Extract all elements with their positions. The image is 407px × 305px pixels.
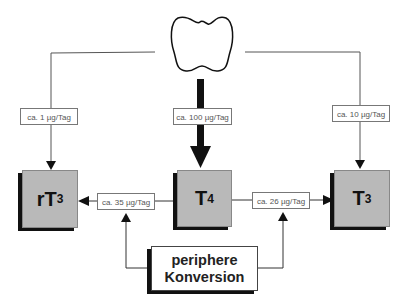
hormone-box-t4: T4	[177, 170, 232, 227]
hormone-sub-t3: 3	[365, 192, 372, 206]
thyroid-icon	[171, 17, 232, 71]
hormone-box-rt3: rT3	[22, 170, 78, 228]
hormone-sub-rt3: 3	[57, 192, 64, 206]
hormone-box-t3: T3	[334, 170, 390, 227]
rate-label-thyroid-rt3: ca. 1 µg/Tag	[20, 108, 78, 125]
rate-label-t4-rt3: ca. 35 µg/Tag	[97, 193, 155, 210]
rate-label-t4-t3: ca. 26 µg/Tag	[252, 192, 310, 209]
hormone-sub-t4: 4	[207, 192, 214, 206]
rate-label-thyroid-t3: ca. 10 µg/Tag	[332, 105, 390, 122]
rate-label-thyroid-t4: ca. 100 µg/Tag	[173, 108, 232, 125]
hormone-label-rt3: rT	[37, 188, 57, 211]
peripheral-conversion-box: periphere Konversion	[151, 246, 258, 291]
conversion-line1: periphere	[152, 252, 257, 269]
hormone-label-t3: T	[353, 187, 365, 210]
hormone-label-t4: T	[195, 187, 207, 210]
conversion-line2: Konversion	[152, 269, 257, 286]
